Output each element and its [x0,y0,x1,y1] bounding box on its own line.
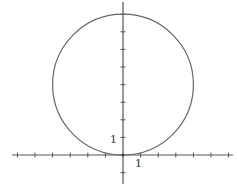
y-axis-unit-label: 1 [110,134,117,145]
coordinate-plot [0,0,237,188]
x-axis-unit-label: 1 [135,158,142,169]
origin-point [121,153,124,156]
